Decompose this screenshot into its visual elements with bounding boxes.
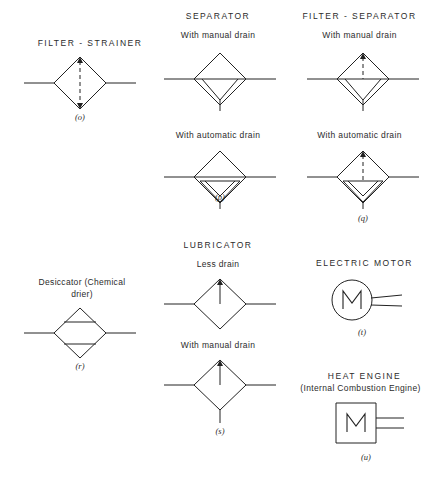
subheading-lubricator-manual-drain: With manual drain	[150, 340, 286, 351]
caption-filter-strainer: (o)	[28, 112, 132, 122]
symbol-filter-strainer	[22, 55, 138, 111]
symbol-desiccator	[22, 306, 138, 360]
subheading-heat-engine: (Internal Combustion Engine)	[292, 383, 429, 394]
pneumatic-symbols-sheet: FILTER - STRAINER (o) SEPARATOR With man…	[0, 0, 429, 484]
symbol-separator-manual-drain	[162, 50, 278, 112]
heading-filter-separator: FILTER - SEPARATOR	[290, 11, 429, 22]
label-desiccator-line2: drier)	[8, 288, 156, 300]
heading-heat-engine: HEAT ENGINE	[300, 371, 429, 382]
label-desiccator-line1: Desiccator (Chemical	[8, 276, 156, 288]
subheading-lubricator-less-drain: Less drain	[150, 259, 286, 270]
caption-electric-motor: (t)	[310, 327, 414, 337]
symbol-heat-engine	[330, 399, 416, 447]
subheading-separator-manual-drain: With manual drain	[150, 30, 286, 41]
heading-electric-motor: ELECTRIC MOTOR	[300, 258, 429, 269]
symbol-lubricator-manual-drain	[162, 358, 278, 424]
symbol-electric-motor	[326, 276, 412, 324]
symbol-lubricator-less-drain	[162, 277, 278, 331]
heading-separator: SEPARATOR	[150, 11, 286, 22]
symbol-filter-separator-manual-drain	[305, 50, 421, 112]
caption-lubricator: (s)	[168, 426, 272, 436]
caption-filter-separator: (q)	[311, 213, 415, 223]
caption-desiccator: (r)	[28, 361, 132, 371]
symbol-filter-separator-automatic-drain	[305, 148, 421, 210]
subheading-filter-separator-manual-drain: With manual drain	[290, 30, 429, 41]
subheading-separator-automatic-drain: With automatic drain	[150, 130, 286, 141]
heading-lubricator: LUBRICATOR	[150, 240, 286, 251]
subheading-filter-separator-automatic-drain: With automatic drain	[290, 130, 429, 141]
caption-heat-engine: (u)	[314, 452, 418, 462]
caption-separator: (p)	[168, 192, 272, 202]
